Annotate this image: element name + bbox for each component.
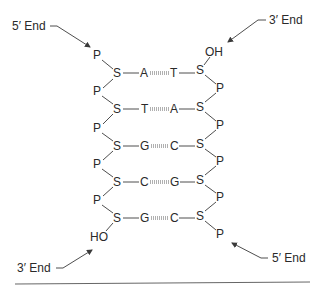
base-right-2: A <box>170 102 178 116</box>
left-phosphate-3: P <box>93 121 101 135</box>
left-sugar-5: S <box>113 211 121 225</box>
left-terminal-hydroxyl: HO <box>90 230 108 244</box>
label-bottom-right-5prime-end: 5′ End <box>272 251 306 265</box>
label-top-right-3prime-end: 3′ End <box>269 13 303 27</box>
right-strand: OH S P S P S P S P S P <box>196 45 224 241</box>
right-sugar-4: S <box>196 173 204 187</box>
left-strand: P S P S P S P S P S HO <box>90 48 121 244</box>
right-terminal-hydroxyl: OH <box>205 45 223 59</box>
right-sugar-1: S <box>196 63 204 77</box>
left-sugar-3: S <box>113 139 121 153</box>
bottom-rule <box>15 282 310 284</box>
right-sugar-5: S <box>196 209 204 223</box>
base-right-5: C <box>170 211 179 225</box>
arrow-bottom-left <box>56 250 92 268</box>
base-left-4: C <box>140 175 149 189</box>
left-sugar-4: S <box>113 175 121 189</box>
right-phosphate-3: P <box>216 154 224 168</box>
arrow-top-left <box>50 26 90 47</box>
left-sugar-1: S <box>113 66 121 80</box>
base-pair-2: T A <box>123 102 195 116</box>
base-pair-3: G C <box>123 139 195 153</box>
base-left-5: G <box>140 211 149 225</box>
dna-diagram: 5′ End 3′ End 3′ End 5′ End P S <box>0 0 322 288</box>
left-phosphate-5: P <box>93 193 101 207</box>
left-phosphate-2: P <box>93 84 101 98</box>
base-left-2: T <box>141 102 149 116</box>
left-strand-backbone <box>102 60 113 231</box>
base-right-4: G <box>170 175 179 189</box>
base-pair-1: A T <box>123 66 195 80</box>
right-sugar-3: S <box>196 137 204 151</box>
right-phosphate-1: P <box>216 81 224 95</box>
arrow-bottom-right <box>232 243 268 258</box>
left-phosphate-1: P <box>93 48 101 62</box>
label-bottom-left-3prime-end: 3′ End <box>17 261 51 275</box>
right-sugar-2: S <box>196 100 204 114</box>
base-right-1: T <box>170 66 178 80</box>
base-left-1: A <box>140 66 148 80</box>
base-left-3: G <box>140 139 149 153</box>
label-top-left-5prime-end: 5′ End <box>12 19 46 33</box>
left-phosphate-4: P <box>93 157 101 171</box>
left-sugar-2: S <box>113 102 121 116</box>
base-pair-5: G C <box>123 211 195 225</box>
right-phosphate-5: P <box>216 227 224 241</box>
base-right-3: C <box>170 139 179 153</box>
base-pair-4: C G <box>123 175 195 189</box>
right-strand-backbone <box>204 57 216 230</box>
right-phosphate-4: P <box>216 190 224 204</box>
arrow-top-right <box>228 20 266 42</box>
right-phosphate-2: P <box>216 118 224 132</box>
